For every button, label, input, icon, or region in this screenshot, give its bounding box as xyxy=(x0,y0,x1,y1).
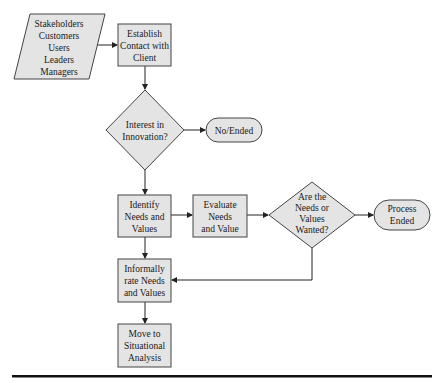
edge-wanted-informally xyxy=(172,248,312,280)
process-ended-line-2: Ended xyxy=(390,216,415,226)
establish-line-3: Client xyxy=(133,53,157,63)
stakeholders-input-node: Stakeholders Customers Users Leaders Man… xyxy=(14,14,105,79)
identify-line-1: Identify xyxy=(129,200,159,210)
identify-line-3: Values xyxy=(132,224,158,234)
informally-line-1: Informally xyxy=(124,264,165,274)
wanted-line-4: Wanted? xyxy=(296,225,329,235)
interest-line-2: Innovation? xyxy=(122,132,167,142)
stakeholders-line-5: Managers xyxy=(40,67,78,77)
identify-line-2: Needs and xyxy=(125,212,165,222)
needs-wanted-decision-node: Are the Needs or Values Wanted? xyxy=(269,182,355,248)
establish-line-2: Contact with xyxy=(120,41,169,51)
move-line-1: Move to xyxy=(129,329,161,339)
informally-rate-node: Informally rate Needs and Values xyxy=(118,259,171,302)
move-line-3: Analysis xyxy=(128,353,162,363)
wanted-line-2: Needs or xyxy=(295,203,330,213)
stakeholders-line-3: Users xyxy=(48,43,70,53)
evaluate-line-3: and Value xyxy=(201,224,239,234)
stakeholders-line-4: Leaders xyxy=(44,55,74,65)
no-ended-terminator: No/Ended xyxy=(206,118,262,142)
process-ended-line-1: Process xyxy=(387,204,416,214)
move-to-situational-analysis-node: Move to Situational Analysis xyxy=(118,324,171,367)
informally-line-2: rate Needs xyxy=(124,276,165,286)
bottom-rule-divider xyxy=(12,375,432,378)
wanted-line-3: Values xyxy=(299,214,325,224)
interest-decision-node: Interest in Innovation? xyxy=(106,90,184,170)
evaluate-line-1: Evaluate xyxy=(203,200,236,210)
flowchart: Stakeholders Customers Users Leaders Man… xyxy=(0,0,443,383)
informally-line-3: and Values xyxy=(124,288,166,298)
stakeholders-line-2: Customers xyxy=(39,31,80,41)
wanted-line-1: Are the xyxy=(298,192,326,202)
interest-line-1: Interest in xyxy=(126,120,165,130)
evaluate-needs-node: Evaluate Needs and Value xyxy=(193,195,247,237)
establish-contact-node: Establish Contact with Client xyxy=(118,24,171,66)
no-ended-label: No/Ended xyxy=(215,126,254,136)
establish-line-1: Establish xyxy=(127,29,162,39)
stakeholders-line-1: Stakeholders xyxy=(34,19,83,29)
move-line-2: Situational xyxy=(124,341,166,351)
process-ended-terminator: Process Ended xyxy=(374,200,430,230)
identify-needs-node: Identify Needs and Values xyxy=(118,195,171,237)
evaluate-line-2: Needs xyxy=(208,212,232,222)
